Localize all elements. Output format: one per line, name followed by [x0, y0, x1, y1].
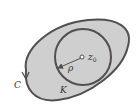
contour-diagram: z0 ρ C K	[0, 0, 137, 106]
circle-label-k: K	[59, 85, 68, 95]
radius-label: ρ	[67, 63, 74, 73]
center-point	[80, 55, 84, 59]
contour-label-c: C	[14, 80, 21, 90]
